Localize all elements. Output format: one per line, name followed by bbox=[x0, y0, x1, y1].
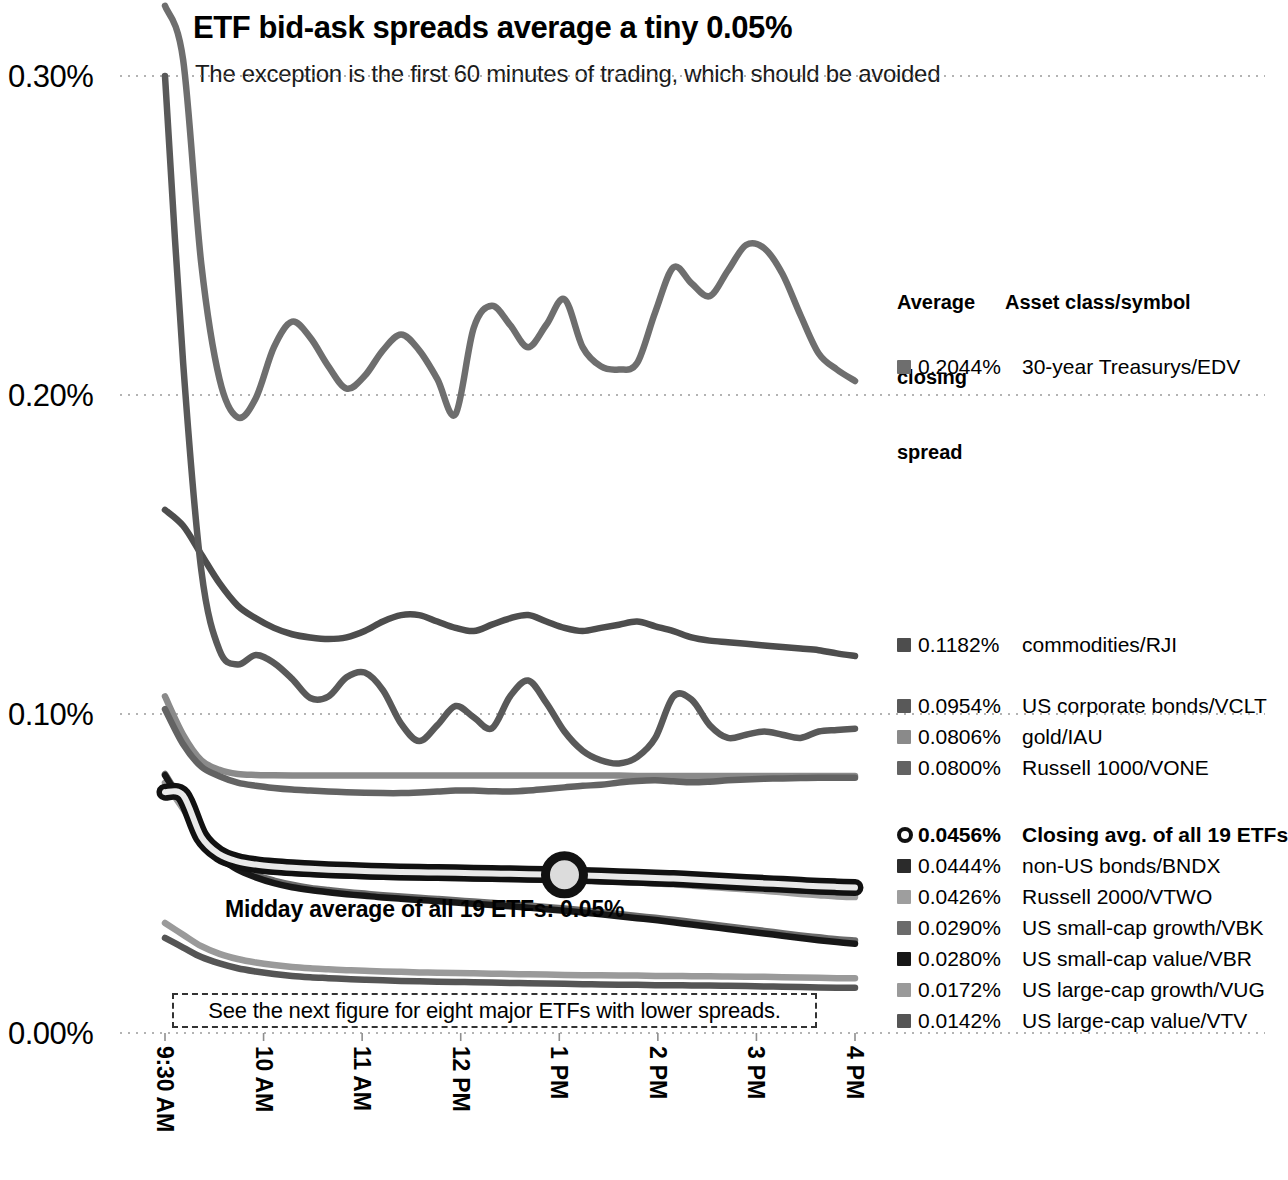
y-axis-tick: 0.10% bbox=[8, 699, 93, 730]
legend-color-swatch-icon bbox=[897, 699, 911, 713]
series-line bbox=[165, 6, 855, 418]
legend-item[interactable]: 0.0172%US large-cap growth/VUG bbox=[897, 979, 1265, 1000]
legend-closing-spread: 0.0172% bbox=[918, 979, 1022, 1000]
legend-asset-label: US corporate bonds/VCLT bbox=[1022, 695, 1267, 716]
midday-average-annotation: Midday average of all 19 ETFs: 0.05% bbox=[225, 898, 624, 921]
legend-asset-label: US large-cap growth/VUG bbox=[1022, 979, 1265, 1000]
legend-closing-spread: 0.0800% bbox=[918, 757, 1022, 778]
legend-color-swatch-icon bbox=[897, 761, 911, 775]
legend-color-swatch-icon bbox=[897, 952, 911, 966]
legend-header-line3: spread bbox=[897, 440, 975, 465]
legend-asset-label: Russell 1000/VONE bbox=[1022, 757, 1209, 778]
legend-item[interactable]: 0.0142%US large-cap value/VTV bbox=[897, 1010, 1247, 1031]
legend-color-swatch-icon bbox=[897, 360, 911, 374]
y-axis-tick: 0.20% bbox=[8, 380, 93, 411]
legend-item[interactable]: 0.0806%gold/IAU bbox=[897, 726, 1103, 747]
legend-asset-label: US large-cap value/VTV bbox=[1022, 1010, 1247, 1031]
y-axis-tick: 0.00% bbox=[8, 1018, 93, 1049]
x-axis-tick: 12 PM bbox=[449, 1046, 472, 1111]
series-line bbox=[165, 76, 855, 764]
legend-asset-label: commodities/RJI bbox=[1022, 634, 1177, 655]
legend-asset-label: gold/IAU bbox=[1022, 726, 1103, 747]
legend-closing-spread: 0.0806% bbox=[918, 726, 1022, 747]
legend-color-swatch-icon bbox=[897, 638, 911, 652]
legend-closing-spread: 0.0290% bbox=[918, 917, 1022, 938]
legend-closing-spread: 0.0456% bbox=[918, 824, 1022, 845]
legend-header-asset-class: Asset class/symbol bbox=[1005, 290, 1191, 315]
next-figure-note: See the next figure for eight major ETFs… bbox=[172, 993, 817, 1028]
legend-color-swatch-icon bbox=[897, 1014, 911, 1028]
legend-asset-label: 30-year Treasurys/EDV bbox=[1022, 356, 1240, 377]
legend-item[interactable]: 0.0280%US small-cap value/VBR bbox=[897, 948, 1252, 969]
legend-closing-spread: 0.0954% bbox=[918, 695, 1022, 716]
x-axis-tick: 3 PM bbox=[744, 1046, 767, 1099]
legend-color-swatch-icon bbox=[897, 859, 911, 873]
legend-closing-spread: 0.2044% bbox=[918, 356, 1022, 377]
legend-item[interactable]: 0.0426%Russell 2000/VTWO bbox=[897, 886, 1212, 907]
legend-item[interactable]: 0.0954%US corporate bonds/VCLT bbox=[897, 695, 1267, 716]
legend-asset-label: US small-cap growth/VBK bbox=[1022, 917, 1264, 938]
next-figure-note-text: See the next figure for eight major ETFs… bbox=[208, 1000, 780, 1022]
legend-asset-label: US small-cap value/VBR bbox=[1022, 948, 1252, 969]
legend-item[interactable]: 0.2044%30-year Treasurys/EDV bbox=[897, 356, 1240, 377]
legend-header-line1: Average bbox=[897, 290, 975, 315]
legend-color-swatch-icon bbox=[897, 730, 911, 744]
legend-item[interactable]: 0.1182%commodities/RJI bbox=[897, 634, 1177, 655]
legend-asset-label: Closing avg. of all 19 ETFs bbox=[1022, 824, 1288, 845]
x-axis-tick: 10 AM bbox=[252, 1046, 275, 1112]
legend-item[interactable]: 0.0444%non-US bonds/BNDX bbox=[897, 855, 1220, 876]
legend-closing-spread: 0.0280% bbox=[918, 948, 1022, 969]
legend-item[interactable]: 0.0290%US small-cap growth/VBK bbox=[897, 917, 1264, 938]
x-axis-tick: 2 PM bbox=[646, 1046, 669, 1099]
legend-asset-label: Russell 2000/VTWO bbox=[1022, 886, 1212, 907]
midday-average-marker bbox=[545, 856, 583, 894]
legend-item[interactable]: 0.0800%Russell 1000/VONE bbox=[897, 757, 1209, 778]
x-axis-tick: 11 AM bbox=[350, 1046, 373, 1111]
legend-closing-spread: 0.0444% bbox=[918, 855, 1022, 876]
y-axis-tick: 0.30% bbox=[8, 61, 93, 92]
legend-closing-spread: 0.0142% bbox=[918, 1010, 1022, 1031]
legend-header: Average closing spread Asset class/symbo… bbox=[897, 240, 975, 540]
legend-color-swatch-icon bbox=[897, 983, 911, 997]
legend-closing-spread: 0.1182% bbox=[918, 634, 1022, 655]
legend-asset-label: non-US bonds/BNDX bbox=[1022, 855, 1220, 876]
legend-color-swatch-icon bbox=[897, 890, 911, 904]
x-axis-tick: 9:30 AM bbox=[153, 1046, 176, 1132]
series-line bbox=[165, 709, 855, 793]
x-axis-tick: 4 PM bbox=[843, 1046, 866, 1099]
legend-closing-spread: 0.0426% bbox=[918, 886, 1022, 907]
series-line bbox=[165, 510, 855, 656]
x-axis-tick: 1 PM bbox=[547, 1046, 570, 1099]
legend-color-swatch-icon bbox=[897, 921, 911, 935]
legend-item[interactable]: 0.0456%Closing avg. of all 19 ETFs bbox=[897, 824, 1288, 845]
legend-ring-marker-icon bbox=[897, 827, 913, 843]
